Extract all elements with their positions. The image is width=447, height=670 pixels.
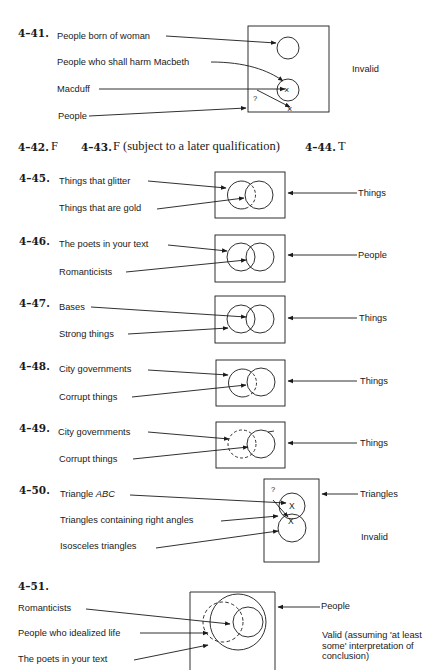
label-isosceles-triangles: Isosceles triangles <box>60 541 136 552</box>
verdict-4-51: Valid (assuming 'at least some' interpre… <box>322 630 442 662</box>
diagram-4-51 <box>86 592 320 670</box>
universe-4-45: Things <box>358 188 386 199</box>
label-people-born-of-woman: People born of woman <box>57 31 150 42</box>
exercise-number-4-46: 4–46. <box>19 235 50 247</box>
exercise-number-4-43: 4–43. <box>81 141 112 153</box>
universe-4-47: Things <box>359 313 387 324</box>
label-poets-in-your-text-51: The poets in your text <box>18 654 107 665</box>
answer-4-43: F (subject to a later qualification) <box>113 139 280 154</box>
label-romanticists: Romanticists <box>59 267 112 278</box>
exercise-number-4-51: 4–51. <box>18 580 49 592</box>
exercise-number-4-44: 4–44. <box>305 141 336 153</box>
x-mark-abc-1: X <box>289 501 295 511</box>
exercise-number-4-47: 4–47. <box>19 297 50 309</box>
label-corrupt-things-49: Corrupt things <box>59 454 117 465</box>
universe-4-46: People <box>358 250 387 261</box>
exercise-number-4-42: 4–42. <box>18 141 49 153</box>
question-mark-50: ? <box>271 485 275 494</box>
label-macduff: Macduff <box>57 84 90 95</box>
question-mark-41: ? <box>253 94 257 103</box>
label-people: People <box>58 111 87 122</box>
label-city-governments-48: City governments <box>59 364 131 375</box>
exercise-number-4-48: 4–48. <box>19 360 50 372</box>
label-strong-things: Strong things <box>59 329 114 340</box>
label-people-who-idealized-life: People who idealized life <box>18 628 120 639</box>
verdict-4-41: Invalid <box>352 64 379 75</box>
universe-4-50: Triangles <box>360 489 398 500</box>
label-corrupt-things-48: Corrupt things <box>59 392 117 403</box>
answer-4-42: F <box>51 139 58 154</box>
diagram-4-49 <box>133 422 357 468</box>
label-city-governments-49: City governments <box>58 427 130 438</box>
universe-4-48: Things <box>360 376 388 387</box>
diagram-4-47 <box>91 296 357 343</box>
exercise-number-4-49: 4–49. <box>19 422 50 434</box>
label-triangle-abc: Triangle ABC <box>60 489 115 500</box>
x-mark-abc-2: X <box>288 516 294 526</box>
x-mark-people: × <box>287 104 292 114</box>
label-things-that-glitter: Things that glitter <box>59 176 130 187</box>
universe-4-51: People <box>321 601 350 612</box>
label-people-who-shall-harm-macbeth: People who shall harm Macbeth <box>57 57 189 68</box>
verdict-4-50: Invalid <box>361 532 388 543</box>
diagram-4-46 <box>126 235 357 282</box>
exercise-number-4-41: 4–41. <box>18 27 49 39</box>
exercise-number-4-50: 4–50. <box>19 484 50 496</box>
label-triangles-right-angles: Triangles containing right angles <box>60 515 194 526</box>
answer-4-44: T <box>338 139 346 154</box>
universe-4-49: Things <box>360 438 388 449</box>
diagram-4-45 <box>148 172 357 218</box>
x-mark-macduff: × <box>284 85 289 95</box>
label-bases: Bases <box>59 302 85 313</box>
label-things-that-are-gold: Things that are gold <box>59 203 141 214</box>
textbook-answer-page: × × ? X X ? 4–41. People born of woman P… <box>0 0 447 670</box>
exercise-number-4-45: 4–45. <box>19 172 50 184</box>
label-poets-in-your-text: The poets in your text <box>59 239 148 250</box>
diagram-4-48 <box>132 360 357 406</box>
label-romanticists-51: Romanticists <box>18 603 71 614</box>
